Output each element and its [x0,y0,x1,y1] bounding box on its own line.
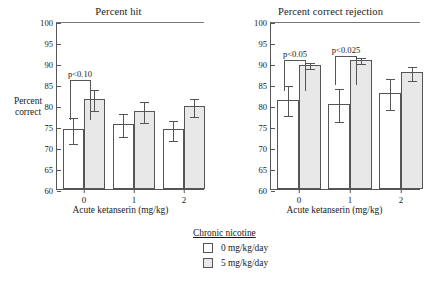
legend-title: Chronic nicotine [193,228,268,238]
y-tick-mark [271,23,275,24]
figure-container: Percent hit Percent correct p<0.10 10095… [0,0,427,293]
y-tick-mark [57,191,61,192]
p-value-label: p<0.025 [332,45,360,55]
y-tick-mark [271,65,275,66]
significance-bracket: p<0.025 [335,56,357,85]
x-tick-label: 2 [182,189,187,205]
y-tick-label: 95 [258,39,271,49]
y-tick-mark [271,170,275,171]
error-bar-stem [412,67,413,82]
x-tick-mark [84,189,85,193]
legend-swatch-open-icon [203,243,213,253]
error-bar-cap-bottom [306,69,315,70]
legend-item-1: 5 mg/kg/day [203,258,268,268]
error-bar-cap-top [190,99,199,100]
x-tick-label: 0 [82,189,87,205]
bar-group [163,23,205,189]
error-bar-stem [173,121,174,142]
error-bar-stem [194,99,195,118]
bar [184,106,205,189]
chart-panel-percent-hit: Percent hit Percent correct p<0.10 10095… [0,0,215,225]
error-bar-cap-bottom [408,81,417,82]
y-tick-mark [57,170,61,171]
error-bar-stem [339,89,340,123]
y-tick-mark [57,149,61,150]
y-tick-label: 75 [258,123,271,133]
significance-bracket: p<0.05 [284,60,306,91]
y-tick-label: 70 [258,144,271,154]
significance-bracket: p<0.10 [70,80,91,120]
y-tick-label: 80 [258,102,271,112]
x-tick-label: 2 [399,189,404,205]
y-tick-label: 65 [44,165,57,175]
y-tick-label: 90 [258,60,271,70]
x-tick-mark [184,189,185,193]
error-bar-cap-top [169,121,178,122]
y-tick-mark [57,128,61,129]
x-tick-label: 1 [132,189,137,205]
y-tick-label: 65 [258,165,271,175]
plot-area-left: p<0.10 1009590858075706560012 [56,22,204,190]
y-tick-label: 60 [258,186,271,196]
y-tick-label: 80 [44,102,57,112]
plot-area-right: p<0.05p<0.025 1009590858075706560012 [270,22,420,190]
bar-group [277,23,321,189]
y-tick-label: 60 [44,186,57,196]
y-tick-label: 90 [44,60,57,70]
y-tick-label: 70 [44,144,57,154]
error-bar-cap-bottom [335,122,344,123]
y-tick-mark [271,149,275,150]
error-bar-cap-top [335,89,344,90]
error-bar-cap-bottom [119,137,128,138]
error-bar-cap-bottom [140,123,149,124]
p-value-label: p<0.10 [68,69,92,79]
bar [401,72,423,189]
x-axis-label-right: Acute ketanserin (mg/kg) [212,205,427,215]
error-bar-cap-top [306,63,315,64]
y-tick-mark [57,65,61,66]
y-tick-label: 85 [44,81,57,91]
chart-panel-percent-correct-rejection: Percent correct rejection p<0.05p<0.025 … [212,0,427,225]
legend: Chronic nicotine 0 mg/kg/day 5 mg/kg/day [0,228,427,293]
error-bar-stem [73,118,74,145]
panels-row: Percent hit Percent correct p<0.10 10095… [0,0,427,225]
error-bar-cap-top [140,102,149,103]
y-tick-mark [271,128,275,129]
bar-group [379,23,423,189]
legend-label-1: 5 mg/kg/day [221,258,268,268]
y-tick-label: 95 [44,39,57,49]
error-bar-cap-bottom [90,111,99,112]
y-tick-mark [271,107,275,108]
error-bar-cap-bottom [284,116,293,117]
error-bar-stem [390,79,391,111]
y-tick-label: 85 [258,81,271,91]
x-tick-mark [134,189,135,193]
panel-title-left: Percent hit [0,6,215,17]
y-tick-label: 100 [40,18,57,28]
y-tick-mark [271,191,275,192]
x-tick-mark [350,189,351,193]
y-tick-mark [57,86,61,87]
bars-left: p<0.10 [57,23,204,189]
error-bar-cap-bottom [386,110,395,111]
error-bar-cap-top [90,90,99,91]
y-tick-mark [271,44,275,45]
bracket-line [284,60,306,91]
x-tick-label: 1 [348,189,353,205]
error-bar-cap-bottom [190,117,199,118]
legend-swatch-filled-icon [203,258,213,268]
bars-right: p<0.05p<0.025 [271,23,420,189]
legend-item-0: 0 mg/kg/day [203,243,268,253]
error-bar-cap-top [357,58,366,59]
error-bar-stem [94,90,95,113]
bar-group [113,23,155,189]
panel-title-right: Percent correct rejection [212,6,427,17]
y-tick-label: 75 [44,123,57,133]
x-tick-mark [401,189,402,193]
y-tick-mark [271,86,275,87]
error-bar-stem [144,102,145,125]
bracket-line [70,80,91,120]
bracket-line [335,56,357,85]
legend-inner: Chronic nicotine 0 mg/kg/day 5 mg/kg/day [193,228,268,268]
error-bar-cap-bottom [169,141,178,142]
